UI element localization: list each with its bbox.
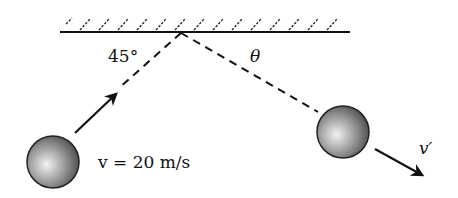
incoming-velocity-arrow (75, 94, 116, 133)
collision-diagram: 45° θ v = 20 m/s v′ (0, 0, 458, 198)
incoming-velocity-label: v = 20 m/s (97, 152, 190, 172)
outgoing-angle-label: θ (250, 46, 260, 66)
outgoing-path (181, 33, 318, 112)
incoming-ball (27, 136, 79, 188)
outgoing-velocity-arrow (375, 149, 422, 175)
wall-hatching (66, 18, 337, 30)
outgoing-ball (317, 106, 369, 158)
outgoing-velocity-label: v′ (419, 138, 433, 158)
incoming-angle-label: 45° (108, 46, 138, 66)
wall (60, 18, 350, 32)
